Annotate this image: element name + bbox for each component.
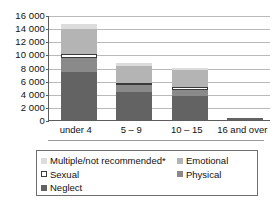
- y-axis-tick-labels: 16 00014 00012 00010 0008 0006 0004 0002…: [0, 0, 45, 128]
- y-axis-tickmark: [46, 121, 49, 122]
- bar-segment-emotional: [61, 29, 97, 55]
- plot-area: [48, 16, 270, 121]
- y-axis-tick-label: 8 000: [1, 64, 45, 73]
- legend-column-left: Multiple/not recommended*SexualNeglect: [41, 154, 171, 195]
- legend-swatch-multiple-icon: [41, 158, 47, 164]
- bar-10-–-15[interactable]: [172, 68, 208, 121]
- x-axis-tick-labels: under 45 – 910 – 1516 and over: [48, 124, 270, 140]
- bar-5-–-9[interactable]: [116, 63, 152, 120]
- axis-underline-rule: [48, 140, 264, 141]
- bar-series-group: [49, 16, 270, 120]
- bar-segment-emotional: [116, 66, 152, 82]
- legend-swatch-emotional-icon: [177, 158, 183, 164]
- bar-segment-neglect: [116, 92, 152, 120]
- chart-figure: 16 00014 00012 00010 0008 0006 0004 0002…: [0, 0, 276, 207]
- legend-item-label: Emotional: [186, 154, 228, 168]
- legend-item[interactable]: Physical: [177, 168, 257, 182]
- bar-segment-neglect: [61, 72, 97, 120]
- y-axis-tick-label: 12 000: [1, 37, 45, 46]
- y-axis-tick-label: 14 000: [1, 24, 45, 33]
- legend-swatch-sexual-icon: [41, 171, 47, 177]
- y-axis-tick-label: 10 000: [1, 50, 45, 59]
- bar-segment-neglect: [172, 96, 208, 120]
- legend-item[interactable]: Emotional: [177, 154, 257, 168]
- legend-column-right: EmotionalPhysical: [177, 154, 257, 181]
- legend-item-label: Physical: [186, 168, 221, 182]
- legend-swatch-neglect-icon: [41, 185, 47, 191]
- y-axis-tick-label: 2 000: [1, 103, 45, 112]
- y-axis-tick-label: 16 000: [1, 11, 45, 20]
- bar-segment-physical: [61, 58, 97, 72]
- legend-item-label: Multiple/not recommended*: [50, 154, 166, 168]
- bar-segment-emotional: [172, 70, 208, 86]
- legend-item[interactable]: Multiple/not recommended*: [41, 154, 171, 168]
- bar-under-4[interactable]: [61, 24, 97, 120]
- legend-item[interactable]: Sexual: [41, 168, 171, 182]
- legend-item-label: Sexual: [50, 168, 79, 182]
- chart-legend: Multiple/not recommended*SexualNeglect E…: [36, 150, 258, 196]
- y-axis-tick-label: 4 000: [1, 90, 45, 99]
- x-axis-tick-label: 16 and over: [209, 124, 277, 136]
- legend-swatch-physical-icon: [177, 171, 183, 177]
- legend-item-label: Neglect: [50, 181, 82, 195]
- y-axis-tick-label: 0: [1, 116, 45, 125]
- bar-16-and-over[interactable]: [227, 118, 263, 120]
- y-axis-tick-label: 6 000: [1, 77, 45, 86]
- legend-item[interactable]: Neglect: [41, 181, 171, 195]
- chart-plot-region: 16 00014 00012 00010 0008 0006 0004 0002…: [0, 0, 276, 128]
- bar-segment-neglect: [227, 118, 263, 120]
